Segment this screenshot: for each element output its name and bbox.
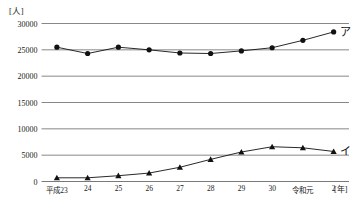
data-point-circle bbox=[270, 45, 275, 50]
data-point-circle bbox=[147, 47, 152, 52]
series-annotation-イ: イ bbox=[340, 142, 351, 158]
plot-area bbox=[0, 0, 360, 213]
data-point-circle bbox=[208, 51, 213, 56]
data-point-circle bbox=[85, 51, 90, 56]
data-point-circle bbox=[177, 50, 182, 55]
series-annotation-ア: ア bbox=[340, 23, 351, 39]
data-point-circle bbox=[300, 38, 305, 43]
chart-container: [人] [年] 050001000015000200002500030000 平… bbox=[0, 0, 360, 213]
gridlines bbox=[42, 24, 350, 182]
data-point-circle bbox=[54, 45, 59, 50]
data-point-circle bbox=[116, 45, 121, 50]
data-series-layer bbox=[54, 29, 337, 180]
data-point-circle bbox=[239, 48, 244, 53]
series-line bbox=[57, 147, 334, 178]
data-point-circle bbox=[331, 29, 336, 34]
